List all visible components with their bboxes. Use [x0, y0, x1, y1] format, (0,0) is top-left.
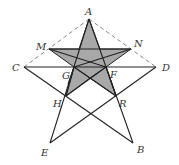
label-C: C — [12, 62, 20, 73]
label-N: N — [133, 38, 144, 49]
label-B: B — [136, 144, 144, 155]
label-G: G — [62, 70, 70, 81]
label-H: H — [52, 98, 62, 109]
label-D: D — [161, 62, 170, 73]
star-diagram: A M N C D G F H R E B — [0, 0, 179, 165]
label-A: A — [84, 6, 92, 17]
label-E: E — [40, 147, 49, 158]
label-F: F — [109, 69, 118, 80]
label-M: M — [35, 41, 47, 52]
label-R: R — [118, 98, 127, 109]
